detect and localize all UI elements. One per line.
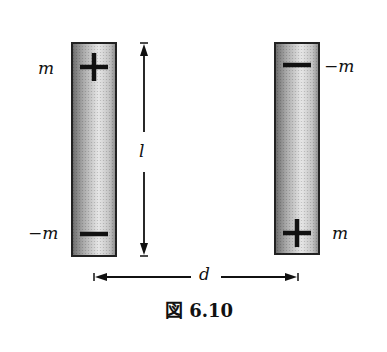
distance-label: d bbox=[199, 264, 210, 284]
right-top-pole-label: −m bbox=[324, 56, 354, 76]
left-bottom-pole-label: −m bbox=[28, 223, 58, 243]
figure-caption: 図 6.10 bbox=[165, 296, 233, 322]
left-top-pole-label: m bbox=[38, 58, 54, 78]
right-magnet bbox=[275, 43, 319, 254]
left-magnet bbox=[72, 43, 116, 256]
right-bottom-pole-label: m bbox=[332, 223, 348, 243]
length-label: l bbox=[139, 141, 144, 161]
figure-6-10: m −m −m m l d 図 6.10 bbox=[0, 0, 387, 352]
distance-dimension-arrow bbox=[94, 273, 298, 281]
